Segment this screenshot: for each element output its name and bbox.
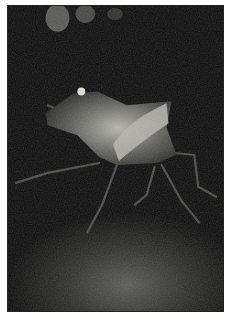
insect-photo (7, 5, 224, 312)
stink-bug-illustration (8, 6, 223, 311)
